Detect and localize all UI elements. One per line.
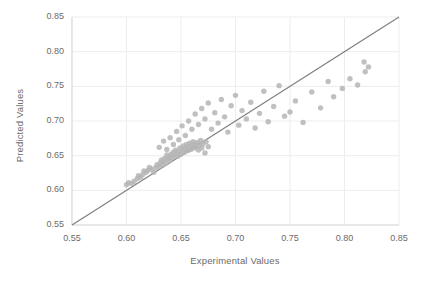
x-tick-label: 0.70	[220, 233, 252, 243]
y-axis-label: Predicted Values	[14, 66, 25, 186]
y-tick-label: 0.75	[32, 80, 64, 90]
y-tick-label: 0.70	[32, 115, 64, 125]
data-points	[124, 59, 371, 187]
y-tick-label: 0.80	[32, 46, 64, 56]
x-tick-label: 0.65	[165, 233, 197, 243]
scatter-chart: Predicted Values Experimental Values 0.8…	[0, 0, 430, 281]
x-tick-label: 0.55	[56, 233, 88, 243]
y-tick-label: 0.55	[32, 219, 64, 229]
y-tick-label: 0.85	[32, 11, 64, 21]
x-tick-label: 0.60	[111, 233, 143, 243]
x-tick-label: 0.75	[274, 233, 306, 243]
x-tick-label: 0.80	[329, 233, 361, 243]
x-axis-label: Experimental Values	[175, 255, 295, 266]
x-tick-label: 0.85	[383, 233, 415, 243]
y-tick-label: 0.65	[32, 150, 64, 160]
y-tick-label: 0.60	[32, 184, 64, 194]
